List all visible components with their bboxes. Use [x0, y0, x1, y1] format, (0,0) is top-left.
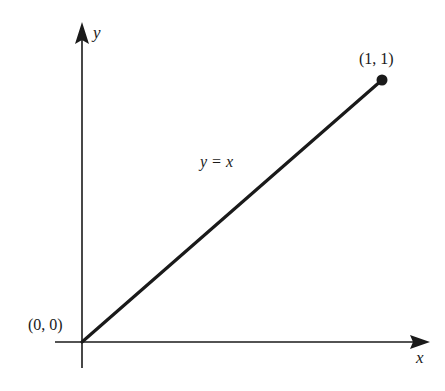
line-segment-diagram: y x (1, 1) (0, 0) y = x	[0, 0, 445, 391]
y-axis-label: y	[91, 23, 101, 42]
x-axis	[55, 335, 430, 349]
x-axis-label: x	[415, 348, 424, 367]
endpoint-dot	[377, 75, 388, 86]
x-axis-arrow-icon	[410, 335, 430, 349]
y-axis	[75, 22, 89, 368]
equation-label: y = x	[198, 153, 233, 171]
start-point-label: (0, 0)	[28, 316, 63, 334]
line-y-equals-x	[82, 80, 382, 342]
end-point-label: (1, 1)	[359, 50, 394, 68]
